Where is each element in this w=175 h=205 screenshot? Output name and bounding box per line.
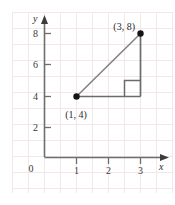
point-label-3-8: (3, 8) <box>113 21 135 33</box>
graph-canvas: y x 0 8 6 4 2 1 2 3 (3, 8) (1, 4) <box>0 0 175 205</box>
right-angle-marker <box>125 81 141 97</box>
point-marker-1-4 <box>73 93 79 99</box>
y-axis-ticks <box>45 34 52 128</box>
x-axis <box>45 154 170 161</box>
y-axis-label: y <box>32 13 38 24</box>
point-marker-3-8 <box>137 30 143 36</box>
x-axis-arrow-icon <box>160 154 169 161</box>
grid-lines <box>12 12 173 193</box>
y-axis-arrow-icon <box>41 15 48 24</box>
y-tick-label-2: 2 <box>33 122 38 133</box>
y-axis <box>41 15 48 157</box>
y-tick-label-8: 8 <box>33 28 38 39</box>
x-axis-label: x <box>158 161 164 172</box>
y-tick-label-4: 4 <box>33 91 38 102</box>
coordinate-plane-figure: y x 0 8 6 4 2 1 2 3 (3, 8) (1, 4) <box>0 0 175 205</box>
y-tick-label-6: 6 <box>33 59 38 70</box>
x-tick-label-3: 3 <box>138 165 143 176</box>
point-label-1-4: (1, 4) <box>65 109 87 121</box>
x-axis-ticks <box>77 158 141 165</box>
x-tick-label-2: 2 <box>106 165 111 176</box>
origin-label: 0 <box>29 163 34 174</box>
x-tick-label-1: 1 <box>74 165 79 176</box>
